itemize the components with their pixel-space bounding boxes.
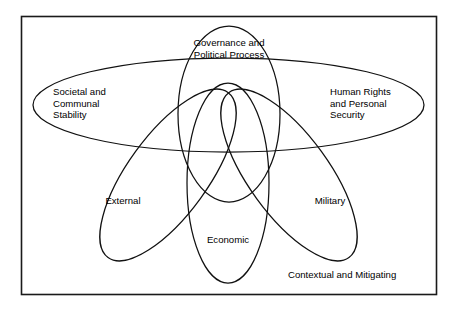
label-external: External	[105, 195, 140, 206]
label-economic: Economic	[207, 234, 249, 245]
label-societal-line-2: Communal	[53, 98, 99, 109]
label-human-rights-line-1: Human Rights	[330, 86, 391, 97]
label-governance-line-1: Governance and	[194, 37, 265, 48]
label-societal-line-3: Stability	[53, 109, 87, 120]
venn-diagram-canvas: Governance and Political Process Societa…	[0, 0, 458, 310]
label-human-rights-line-3: Security	[330, 109, 365, 120]
label-governance-line-2: Political Process	[194, 49, 265, 60]
label-military: Military	[315, 195, 346, 206]
diagram-root: Governance and Political Process Societa…	[0, 0, 458, 310]
label-societal-line-1: Societal and	[53, 86, 106, 97]
label-contextual-and-mitigating: Contextual and Mitigating	[288, 269, 396, 280]
label-governance: Governance and Political Process	[194, 37, 265, 60]
label-human-rights-line-2: and Personal	[330, 98, 387, 109]
